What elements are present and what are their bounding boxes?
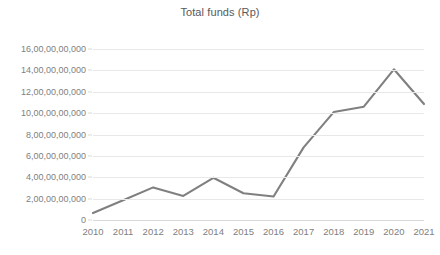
gridline [93,113,424,114]
y-tick-mark [88,198,92,199]
y-tick-label: 4,00,00,00,000 [26,172,86,182]
gridline [93,49,424,50]
x-tick-label: 2010 [82,226,103,237]
y-tick-label: 12,00,00,00,000 [21,87,86,97]
x-tick-label: 2021 [413,226,434,237]
x-axis: 2010201120122013201420152016201720182019… [93,226,424,246]
plot-area [93,49,424,220]
chart-container: Total funds (Rp) 02,00,00,00,0004,00,00,… [0,0,440,255]
x-tick-label: 2011 [113,226,133,237]
y-tick-mark [88,155,92,156]
y-axis: 02,00,00,00,0004,00,00,00,0006,00,00,00,… [0,49,86,220]
y-tick-label: 2,00,00,00,000 [26,194,86,204]
y-tick-label: 10,00,00,00,000 [21,108,86,118]
y-tick-label: 16,00,00,00,000 [21,44,86,54]
y-tick-mark [88,91,92,92]
gridline [93,199,424,200]
y-tick-mark [88,49,92,50]
x-tick-label: 2013 [173,226,194,237]
y-tick-mark [88,134,92,135]
y-tick-label: 8,00,00,00,000 [26,130,86,140]
y-tick-label: 14,00,00,00,000 [21,65,86,75]
gridline [93,156,424,157]
x-tick-label: 2018 [323,226,344,237]
x-tick-label: 2012 [143,226,164,237]
x-tick-label: 2020 [383,226,404,237]
gridline [93,70,424,71]
x-tick-label: 2015 [233,226,254,237]
x-tick-label: 2014 [203,226,224,237]
gridline [93,135,424,136]
y-tick-mark [88,177,92,178]
y-tick-mark [88,113,92,114]
x-axis-line [93,220,424,221]
x-tick-label: 2019 [353,226,374,237]
chart-title: Total funds (Rp) [0,6,440,18]
gridline [93,177,424,178]
x-tick-label: 2017 [293,226,314,237]
y-tick-mark [88,220,92,221]
y-tick-mark [88,70,92,71]
x-tick-label: 2016 [263,226,284,237]
y-tick-label: 0 [81,215,86,225]
gridline [93,92,424,93]
y-tick-label: 6,00,00,00,000 [26,151,86,161]
